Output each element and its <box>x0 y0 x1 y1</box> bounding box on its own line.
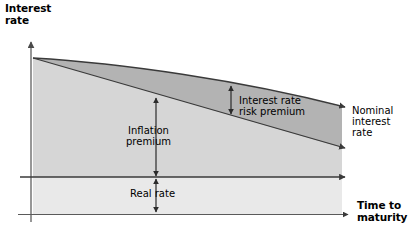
yield-curve-components-diagram: Interestrate Time tomaturity Nominalinte… <box>0 0 412 240</box>
nominal-label-line-3: rate <box>352 127 372 138</box>
risk-premium-label-line-2: risk premium <box>239 106 305 117</box>
x-axis-title-line-1: Time to <box>357 199 401 211</box>
y-axis-title: Interestrate <box>5 3 51 27</box>
inflation-premium-label: Inflationpremium <box>126 125 171 147</box>
diagram-canvas <box>0 0 412 240</box>
y-axis-title-line-2: rate <box>5 14 29 26</box>
real-rate-label-text: Real rate <box>130 188 175 199</box>
inflation-label-line-2: premium <box>126 136 171 147</box>
y-axis-title-line-1: Interest <box>5 2 51 14</box>
inflation-label-line-1: Inflation <box>128 125 169 136</box>
nominal-label-line-1: Nominal <box>352 105 393 116</box>
interest-rate-risk-premium-label: Interest raterisk premium <box>239 95 305 117</box>
nominal-interest-rate-label: Nominalinterestrate <box>352 105 393 139</box>
x-axis-title-line-2: maturity <box>357 211 407 223</box>
band-real-rate <box>33 177 342 214</box>
risk-premium-label-line-1: Interest rate <box>239 95 301 106</box>
nominal-label-line-2: interest <box>352 116 390 127</box>
real-rate-label: Real rate <box>130 188 175 199</box>
x-axis-title: Time tomaturity <box>357 200 407 224</box>
